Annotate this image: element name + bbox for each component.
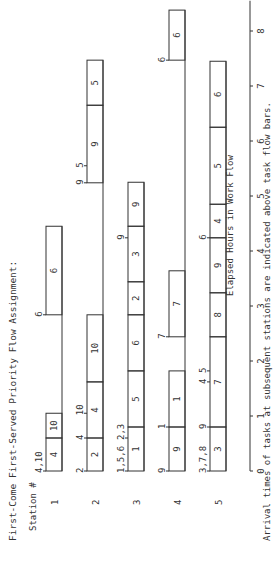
task-label: 9 [172, 446, 182, 451]
arrival-label: 9 [116, 234, 126, 239]
task-label: 2 [131, 296, 141, 301]
task-label: 10 [49, 420, 59, 431]
task-label: 8 [213, 312, 223, 317]
arrival-label: 6 [34, 311, 44, 316]
task-label: 5 [90, 80, 100, 85]
task-label: 6 [131, 340, 141, 345]
task-label: 3 [131, 251, 141, 256]
task-label: 3 [213, 446, 223, 451]
arrival-label: 1 [157, 424, 167, 429]
task-label: 7 [172, 301, 182, 306]
task-label: 5 [213, 163, 223, 168]
arrival-label: 4 [75, 435, 85, 440]
task-label: 4 [90, 407, 100, 412]
task-label: 5 [131, 396, 141, 401]
task-label: 6 [172, 32, 182, 37]
arrival-label: 3,7,8 [198, 446, 208, 473]
task-label: 1 [131, 446, 141, 451]
arrival-label: 6 [198, 234, 208, 239]
arrival-label: 9 [198, 424, 208, 429]
arrival-label: 7 [157, 333, 167, 338]
arrival-label: 2,3 [116, 424, 126, 440]
station-label: 2 [91, 500, 101, 505]
task-label: 9 [213, 263, 223, 268]
footnote: Arrival times of tasks at subsequent sta… [262, 102, 272, 541]
task-label: 4 [213, 218, 223, 223]
arrival-label: 4 [198, 378, 208, 383]
x-axis-label: Elapsed Hours in Work Flow [225, 155, 235, 296]
station-label: 1 [50, 500, 60, 505]
task-label: 9 [131, 202, 141, 207]
station-label: 4 [173, 500, 183, 505]
arrival-label: 1,5,6 [116, 446, 126, 473]
task-label: 7 [213, 379, 223, 384]
arrival-label: 6 [157, 57, 167, 62]
x-tick-label: 8 [256, 28, 266, 33]
task-label: 2 [90, 452, 100, 457]
task-label: 10 [90, 343, 100, 354]
arrival-label: 9 [75, 179, 85, 184]
task-label: 6 [213, 92, 223, 97]
task-label: 1 [172, 396, 182, 401]
station-label: 5 [214, 500, 224, 505]
rotated-chart-page: First-Come First-Served Priority Flow As… [0, 0, 280, 561]
task-label: 4 [49, 452, 59, 457]
arrival-label: 10 [75, 404, 85, 415]
task-label: 9 [90, 141, 100, 146]
task-label: 6 [49, 268, 59, 273]
arrival-label: 5 [198, 367, 208, 372]
arrival-label: 4,10 [34, 451, 44, 473]
arrival-label: 2 [75, 468, 85, 473]
arrival-label: 5 [75, 162, 85, 167]
arrival-label: 9 [157, 468, 167, 473]
station-label: 3 [132, 500, 142, 505]
x-tick-label: 7 [256, 83, 266, 88]
gantt-chart: 141064,106224109524109531562391,5,62,394… [0, 0, 280, 561]
